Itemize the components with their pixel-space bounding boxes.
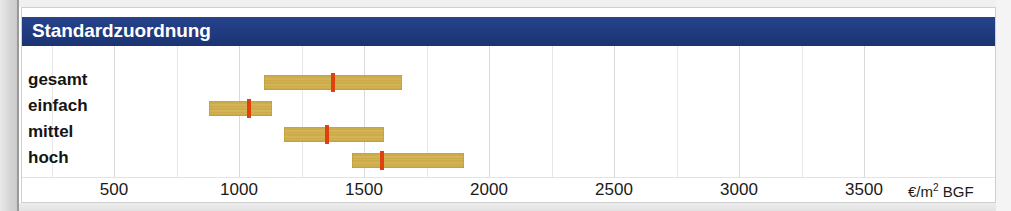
category-label-gesamt: gesamt xyxy=(28,70,88,90)
gridline-minor-2250 xyxy=(552,46,553,177)
gridline-3500 xyxy=(864,46,865,177)
chart-plot-area: gesamteinfachmittelhoch 5001000150020002… xyxy=(22,46,995,202)
scanned-page: Standardzuordnung gesamteinfachmittelhoc… xyxy=(0,0,1011,211)
tick-label-2500: 2500 xyxy=(595,180,633,200)
gridline-2500 xyxy=(614,46,615,177)
range-bar-einfach xyxy=(209,101,272,116)
category-label-mittel: mittel xyxy=(28,122,73,142)
tick-label-1500: 1500 xyxy=(345,180,383,200)
tick-label-3500: 3500 xyxy=(845,180,883,200)
tick-label-1000: 1000 xyxy=(220,180,258,200)
chart-card: Standardzuordnung gesamteinfachmittelhoc… xyxy=(21,7,996,203)
page-gutter-right xyxy=(996,0,1011,211)
value-marker-gesamt xyxy=(331,73,335,92)
page-gutter-left xyxy=(0,0,19,211)
axis-unit-exponent: 2 xyxy=(933,182,939,193)
gridline-500 xyxy=(114,46,115,177)
gridline-minor-750 xyxy=(177,46,178,177)
axis-unit-currency: €/m xyxy=(908,183,933,200)
value-marker-mittel xyxy=(325,125,329,144)
axis-unit-label: €/m2 BGF xyxy=(908,182,974,200)
tick-label-500: 500 xyxy=(100,180,128,200)
gridline-minor-3250 xyxy=(802,46,803,177)
range-bar-mittel xyxy=(284,127,384,142)
page-title: Standardzuordnung xyxy=(32,20,211,42)
chart-title-band: Standardzuordnung xyxy=(22,17,995,46)
gridline-2000 xyxy=(489,46,490,177)
tick-label-2000: 2000 xyxy=(470,180,508,200)
range-bar-gesamt xyxy=(264,75,402,90)
page-gutter-bottom xyxy=(19,203,1011,211)
gridline-minor-1250 xyxy=(302,46,303,177)
category-label-einfach: einfach xyxy=(28,96,88,116)
value-marker-einfach xyxy=(247,99,251,118)
tick-label-3000: 3000 xyxy=(720,180,758,200)
category-label-hoch: hoch xyxy=(28,148,69,168)
page-gutter-top xyxy=(19,0,1011,7)
gridline-minor-2750 xyxy=(677,46,678,177)
axis-unit-suffix: BGF xyxy=(943,183,974,200)
axis-baseline xyxy=(22,177,995,178)
range-bar-hoch xyxy=(352,153,465,168)
value-marker-hoch xyxy=(380,151,384,170)
gridline-3000 xyxy=(739,46,740,177)
